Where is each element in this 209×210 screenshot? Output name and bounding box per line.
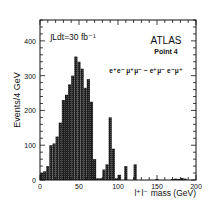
x-tick-label: 50 [75, 183, 83, 190]
histogram-bin [77, 62, 80, 180]
histogram-chart: 0100200300400 050100150200 Events/4 GeV … [0, 0, 209, 210]
y-tick-label: 400 [24, 38, 36, 45]
histogram-bin [112, 149, 115, 180]
histogram-bin [90, 102, 93, 180]
histogram-bin [109, 117, 112, 180]
histogram-bin [59, 123, 62, 180]
histogram-bin [62, 100, 65, 180]
y-tick-labels: 0100200300400 [24, 38, 36, 184]
point-label: Point 4 [154, 48, 177, 55]
histogram-bars [40, 57, 187, 180]
luminosity-annotation: ∫Ldt=30 fb⁻¹ [49, 32, 96, 42]
y-tick-label: 100 [24, 142, 36, 149]
channel-label: e⁺e⁻ μ⁺μ⁻ − e⁺μ⁻ e⁻μ⁺ [109, 67, 182, 75]
histogram-bin [71, 76, 74, 180]
histogram-bin [81, 69, 84, 180]
histogram-bin [68, 84, 71, 180]
y-tick-label: 0 [32, 177, 36, 184]
y-tick-label: 300 [24, 73, 36, 80]
histogram-bin [84, 88, 87, 180]
x-tick-label: 100 [112, 183, 124, 190]
histogram-bin [87, 79, 90, 180]
histogram-bin [56, 137, 59, 180]
histogram-bin [74, 57, 77, 180]
histogram-bin [93, 159, 96, 180]
histogram-bin [118, 175, 121, 180]
x-tick-label: 0 [38, 183, 42, 190]
x-axis-label: l⁺l⁻ mass (GeV) [135, 188, 197, 198]
histogram-bin [49, 145, 52, 180]
histogram-bin [43, 171, 46, 180]
histogram-bin [65, 95, 68, 180]
histogram-bin [52, 143, 55, 180]
atlas-label: ATLAS [151, 35, 182, 46]
histogram-bin [134, 164, 137, 180]
histogram-bin [106, 164, 109, 180]
y-axis-label: Events/4 GeV [12, 72, 22, 128]
y-tick-label: 200 [24, 107, 36, 114]
histogram-bin [102, 170, 105, 180]
